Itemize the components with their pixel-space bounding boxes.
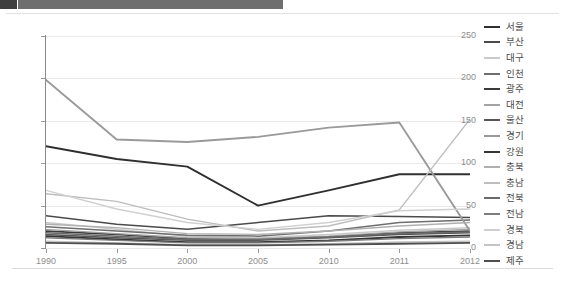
x-tick-label: 2011 <box>376 256 422 266</box>
y-tick-mark <box>41 248 45 249</box>
legend-item[interactable]: 경기 <box>484 128 562 144</box>
x-tick-label: 2005 <box>235 256 281 266</box>
legend-swatch-icon <box>484 26 500 28</box>
legend-swatch-icon <box>484 104 500 106</box>
x-tick-label: 1995 <box>94 256 140 266</box>
legend-item-label: 인천 <box>506 69 524 79</box>
legend-item[interactable]: 부산 <box>484 35 562 51</box>
legend-item[interactable]: 인천 <box>484 66 562 82</box>
legend-item-label: 경북 <box>506 225 524 235</box>
x-tick-mark <box>258 249 259 253</box>
legend-item[interactable]: 충북 <box>484 159 562 175</box>
legend-item-label: 부산 <box>506 37 524 47</box>
divider-bottom <box>12 268 553 269</box>
legend-swatch-icon <box>484 182 500 184</box>
legend-swatch-icon <box>484 73 500 75</box>
legend-item[interactable]: 광주 <box>484 81 562 97</box>
legend-swatch-icon <box>484 57 500 59</box>
x-tick-label: 2010 <box>306 256 352 266</box>
legend-item[interactable]: 울산 <box>484 113 562 129</box>
legend-item-label: 대구 <box>506 53 524 63</box>
legend-item-label: 광주 <box>506 84 524 94</box>
divider-top <box>6 13 559 14</box>
series-line <box>46 80 470 231</box>
x-tick-label: 2000 <box>164 256 210 266</box>
x-tick-mark <box>46 249 47 253</box>
legend-swatch-icon <box>484 135 500 137</box>
x-tick-mark <box>470 249 471 253</box>
legend-item[interactable]: 서울 <box>484 19 562 35</box>
legend-item-label: 제주 <box>506 256 524 266</box>
plot-area <box>46 36 470 248</box>
legend-item-label: 전남 <box>506 209 524 219</box>
y-tick-label: 200 <box>436 73 476 82</box>
y-tick-label: 50 <box>436 201 476 210</box>
legend-item[interactable]: 경북 <box>484 222 562 238</box>
legend-item-label: 경기 <box>506 131 524 141</box>
legend-item-label: 충남 <box>506 178 524 188</box>
legend-item-label: 서울 <box>506 22 524 32</box>
y-tick-label: 250 <box>436 31 476 40</box>
legend-swatch-icon <box>484 229 500 231</box>
legend-swatch-icon <box>484 260 500 262</box>
legend-swatch-icon <box>484 166 500 168</box>
y-tick-mark <box>41 121 45 122</box>
legend-swatch-icon <box>484 88 500 90</box>
legend-swatch-icon <box>484 213 500 215</box>
y-tick-mark <box>41 36 45 37</box>
legend-item-label: 울산 <box>506 115 524 125</box>
legend-item[interactable]: 전북 <box>484 191 562 207</box>
y-tick-label: 150 <box>436 116 476 125</box>
legend-item[interactable]: 경남 <box>484 237 562 253</box>
legend-swatch-icon <box>484 119 500 121</box>
chart-legend: 서울부산대구인천광주대전울산경기강원충북충남전북전남경북경남제주 <box>484 19 562 269</box>
titlebar-right-block <box>18 0 283 9</box>
legend-item-label: 충북 <box>506 162 524 172</box>
titlebar-left-block <box>0 0 18 9</box>
series-line <box>46 146 470 205</box>
legend-item-label: 강원 <box>506 147 524 157</box>
legend-swatch-icon <box>484 41 500 43</box>
legend-item[interactable]: 충남 <box>484 175 562 191</box>
legend-item-label: 대전 <box>506 100 524 110</box>
legend-item-label: 경남 <box>506 240 524 250</box>
y-tick-mark <box>41 206 45 207</box>
x-tick-mark <box>117 249 118 253</box>
y-tick-mark <box>41 163 45 164</box>
series-lines <box>46 36 470 248</box>
y-tick-mark <box>41 78 45 79</box>
legend-item[interactable]: 전남 <box>484 206 562 222</box>
x-tick-mark <box>399 249 400 253</box>
legend-item-label: 전북 <box>506 193 524 203</box>
legend-item[interactable]: 대구 <box>484 50 562 66</box>
legend-swatch-icon <box>484 151 500 153</box>
legend-item[interactable]: 제주 <box>484 253 562 269</box>
legend-swatch-icon <box>484 197 500 199</box>
line-chart: 050100150200250 199019952000200520102011… <box>0 18 476 266</box>
x-tick-mark <box>329 249 330 253</box>
legend-item[interactable]: 대전 <box>484 97 562 113</box>
x-tick-mark <box>187 249 188 253</box>
window-titlebar-strip <box>0 0 283 9</box>
legend-swatch-icon <box>484 244 500 246</box>
legend-item[interactable]: 강원 <box>484 144 562 160</box>
x-tick-label: 1990 <box>23 256 69 266</box>
y-tick-label: 100 <box>436 158 476 167</box>
